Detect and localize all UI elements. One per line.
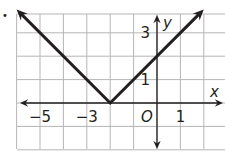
absolute-value-graph: • x y O −5−3113 bbox=[0, 0, 225, 157]
y-tick-label: 3 bbox=[140, 24, 150, 42]
x-tick-label: −5 bbox=[29, 108, 51, 126]
y-axis-label: y bbox=[162, 14, 173, 32]
y-tick-label: 1 bbox=[140, 71, 150, 89]
problem-marker: • bbox=[2, 10, 8, 21]
x-axis-label: x bbox=[209, 83, 219, 101]
tick-labels: −5−3113 bbox=[29, 24, 185, 126]
grid bbox=[17, 14, 225, 150]
axes bbox=[20, 15, 223, 149]
origin-label: O bbox=[141, 108, 153, 126]
x-tick-label: −3 bbox=[76, 108, 98, 126]
x-tick-label: 1 bbox=[176, 108, 186, 126]
